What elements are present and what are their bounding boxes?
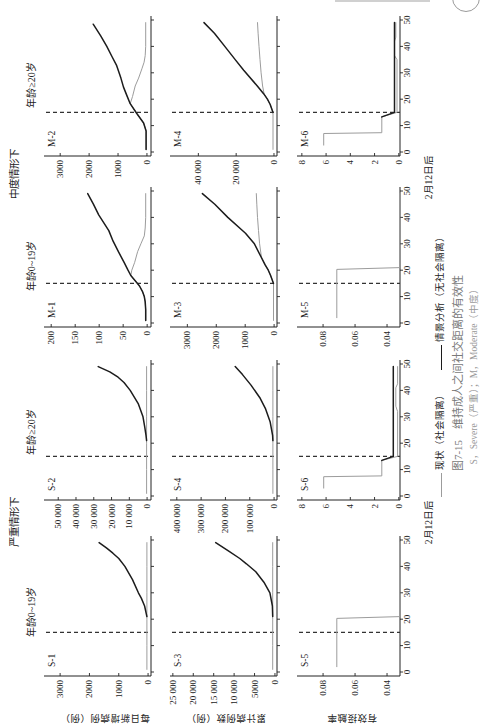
y-tick-label: 0: [269, 504, 279, 509]
y-tick-label: 20 000: [107, 504, 117, 529]
legend-label-scenario: 情景分析（无社会隔离）: [436, 232, 446, 342]
y-tick-label: 4: [345, 504, 355, 509]
y-tick-label: 0.06: [350, 331, 360, 347]
panel-label: S-3: [173, 654, 183, 667]
y-tick-label: 2: [370, 160, 380, 165]
series-line-scenario: [382, 367, 394, 461]
y-tick-label: 0: [269, 160, 279, 165]
y-tick-label: 3000: [55, 160, 65, 179]
x-tick-label: 0: [402, 493, 412, 498]
legend-label-status-quo: 现状（社会隔离）: [436, 390, 446, 470]
y-tick-label: 50: [118, 331, 128, 341]
series-line-scenario: [382, 23, 395, 117]
y-tick-label: 400 000: [172, 504, 182, 534]
y-tick-label: 0: [394, 160, 404, 165]
panel-label: M-5: [300, 301, 310, 318]
y-tick-label: 4: [345, 160, 355, 165]
y-tick-label: 1000: [113, 160, 123, 179]
y-tick-label: 0.06: [350, 680, 360, 696]
x-tick-label: 20: [402, 438, 412, 448]
panel-label: S-2: [47, 478, 57, 491]
series-line-scenario: [216, 543, 273, 617]
chart-panel-M-5: 010203040500.040.060.08M-5: [297, 186, 412, 347]
y-tick-label: 5000: [250, 680, 260, 699]
figure-caption: 图7-15 维持成人之间社交距离的有效性: [453, 275, 464, 471]
series-line-status-quo: [337, 194, 400, 318]
y-tick-label: 25 000: [168, 680, 178, 705]
chart-panel-M-1: 050100150200M-1: [44, 187, 154, 345]
y-tick-label: 0: [270, 680, 280, 685]
x-tick-label: 20: [402, 614, 412, 624]
y-tick-label: 150: [70, 331, 80, 345]
series-line-scenario: [88, 194, 146, 321]
y-tick-label: 2: [370, 504, 380, 509]
y-tick-label: 200: [46, 331, 56, 345]
y-tick-label: 1000: [240, 331, 250, 350]
y-tick-label: 20 000: [188, 680, 198, 705]
panel-label: M-4: [173, 130, 183, 147]
series-line-status-quo: [324, 367, 398, 489]
panel-label: S-1: [47, 654, 57, 667]
y-tick-label: 0: [142, 504, 152, 509]
panel-label: M-6: [300, 130, 310, 147]
series-line-status-quo: [131, 194, 146, 321]
y-tick-label: 0: [269, 331, 279, 336]
chart-panel-S-6: 0102030405002468S-6: [297, 359, 412, 509]
y-tick-label: 0.04: [382, 680, 392, 696]
chart-panel-M-4: 020 00040 000M-4: [170, 16, 280, 185]
x-tick-label: 40: [402, 385, 412, 395]
x-tick-label: 50: [402, 535, 412, 545]
y-tick-label: 40 000: [71, 504, 81, 529]
chart-panel-M-6: 0102030405002468M-6: [297, 15, 412, 165]
y-tick-label: 0: [394, 504, 404, 509]
series-line-status-quo: [130, 23, 146, 150]
x-axis-title-moderate: 2月12日后: [425, 155, 435, 199]
x-tick-label: 10: [402, 465, 412, 475]
series-line-scenario: [93, 24, 146, 149]
y-tick-label: 20 000: [231, 160, 241, 185]
y-tick-label: 0: [142, 160, 152, 165]
y-tick-label: 3000: [55, 680, 65, 699]
x-tick-label: 30: [402, 239, 412, 249]
y-tick-label: 10 000: [229, 680, 239, 705]
chart-panel-S-1: 0100020003000S-1: [44, 536, 154, 698]
x-tick-label: 0: [402, 320, 412, 325]
figure-caption-note: S，Severe（严重）；M，Moderate（中度）: [470, 284, 480, 465]
x-tick-label: 30: [402, 412, 412, 422]
y-tick-label: 0.08: [318, 331, 328, 347]
series-line-scenario: [204, 23, 273, 113]
y-tick-label: 0: [142, 331, 152, 336]
series-line-status-quo: [256, 194, 273, 321]
chart-panel-M-2: 0100020003000M-2: [44, 16, 154, 178]
figure-page: 严重情形下 中度情形下 年龄0~19岁 年龄≥20岁 年龄0~19岁 年龄≥20…: [0, 0, 488, 728]
x-tick-label: 10: [402, 292, 412, 302]
y-tick-label: 200 000: [220, 504, 230, 534]
x-tick-label: 30: [402, 588, 412, 598]
series-line-scenario: [98, 367, 146, 441]
panel-label: M-1: [47, 301, 57, 318]
series-line-scenario: [99, 543, 147, 617]
y-tick-label: 3000: [182, 331, 192, 350]
y-tick-label: 6: [321, 160, 331, 165]
y-tick-label: 0.08: [318, 680, 328, 696]
chart-panel-S-4: 0100 000200 000300 000400 000S-4: [170, 360, 280, 533]
x-tick-label: 20: [402, 265, 412, 275]
panel-label: S-5: [300, 654, 310, 667]
x-tick-label: 10: [402, 641, 412, 651]
y-tick-label: 8: [297, 160, 307, 165]
y-tick-label: 0.04: [382, 331, 392, 347]
legend-swatch-scenario: [441, 345, 442, 370]
y-tick-label: 50 000: [53, 504, 63, 529]
y-tick-label: 300 000: [196, 504, 206, 534]
y-tick-label: 15 000: [209, 680, 219, 705]
chart-panel-M-3: 0100020003000M-3: [170, 187, 280, 349]
panel-label: S-4: [173, 478, 183, 491]
y-tick-label: 8: [297, 504, 307, 509]
series-line-scenario: [202, 194, 273, 284]
legend-swatch-status-quo: [441, 473, 442, 497]
y-tick-label: 100 000: [245, 504, 255, 534]
y-tick-label: 2000: [84, 680, 94, 699]
charts-canvas: 0100020003000S-1010 00020 00030 00040 00…: [0, 0, 488, 728]
x-tick-label: 0: [402, 669, 412, 674]
x-tick-label: 30: [402, 68, 412, 78]
